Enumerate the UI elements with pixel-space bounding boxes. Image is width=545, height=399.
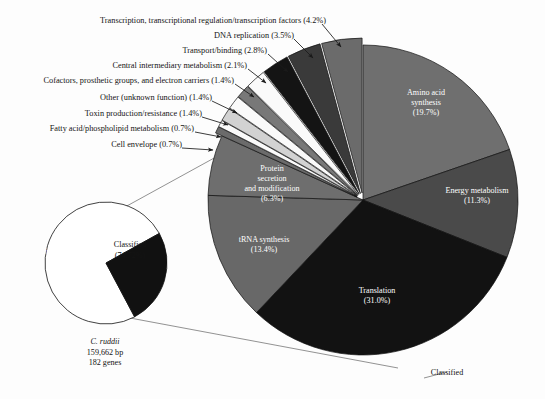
slice-label-line2: (11.3%) bbox=[418, 196, 536, 206]
inset-pie bbox=[45, 202, 167, 324]
slice-label-trna-synthesis: tRNA synthesis (13.4%) bbox=[212, 235, 316, 255]
callout-label-transcription: Transcription, transcriptional regulatio… bbox=[4, 16, 326, 26]
pie-chart-figure: Transcription, transcriptional regulatio… bbox=[0, 0, 545, 399]
callout-label-transport-binding: Transport/binding (2.8%) bbox=[4, 46, 267, 56]
caption-genome-size: 159,662 bp bbox=[50, 348, 160, 359]
slice-label-translation: Translation (31.0%) bbox=[330, 286, 424, 306]
callout-label-other-unknown: Other (unknown function) (1.4%) bbox=[4, 93, 212, 103]
inset-label-line2: (74.72%) bbox=[94, 251, 166, 262]
slice-label-energy-metabolism: Energy metabolism (11.3%) bbox=[418, 186, 536, 206]
callout-label-central-intermediary: Central intermediary metabolism (2.1%) bbox=[4, 61, 247, 71]
callout-label-cell-envelope: Cell envelope (0.7%) bbox=[4, 140, 182, 150]
slice-label-line2: secretion bbox=[220, 174, 324, 184]
slice-label-line1: Protein bbox=[220, 164, 324, 174]
inset-slice-label-classified: Classified (74.72%) bbox=[94, 240, 166, 261]
callout-label-fatty-acid: Fatty acid/phospholipid metabolism (0.7%… bbox=[2, 124, 194, 134]
caption-species: C. ruddii bbox=[50, 337, 160, 348]
inset-caption: C. ruddii 159,662 bp 182 genes bbox=[50, 337, 160, 369]
slice-label-line3: and modification bbox=[220, 184, 324, 194]
slice-label-line1: Amino acid bbox=[378, 88, 474, 98]
callout-label-toxin: Toxin production/resistance (1.4%) bbox=[4, 109, 202, 119]
slice-label-line4: (6.3%) bbox=[220, 194, 324, 204]
callout-label-cofactors: Cofactors, prosthetic groups, and electr… bbox=[2, 76, 234, 86]
slice-label-line2: (31.0%) bbox=[330, 296, 424, 306]
slice-label-protein-secretion: Protein secretion and modification (6.3%… bbox=[220, 164, 324, 204]
callout-label-dna-replication: DNA replication (3.5%) bbox=[4, 31, 294, 41]
slice-label-amino-acid-synthesis: Amino acid synthesis (19.7%) bbox=[378, 88, 474, 118]
inset-label-line1: Classified bbox=[94, 240, 166, 251]
slice-label-line2: (13.4%) bbox=[212, 245, 316, 255]
slice-label-line1: tRNA synthesis bbox=[212, 235, 316, 245]
main-pie-bottom-label: Classified bbox=[412, 368, 482, 378]
slice-label-line3: (19.7%) bbox=[378, 108, 474, 118]
inset-slice-label-unclassified: Unclassified bbox=[28, 247, 94, 258]
callout-arrow-cell-envelope bbox=[182, 148, 213, 150]
slice-label-line2: synthesis bbox=[378, 98, 474, 108]
slice-label-line1: Translation bbox=[330, 286, 424, 296]
slice-label-line1: Energy metabolism bbox=[418, 186, 536, 196]
caption-gene-count: 182 genes bbox=[50, 358, 160, 369]
